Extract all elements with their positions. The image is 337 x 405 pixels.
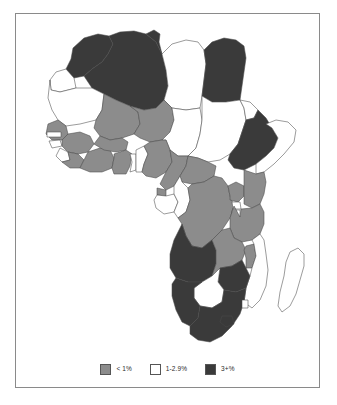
country-madagascar[interactable]: [278, 248, 304, 312]
country-gambia[interactable]: [47, 132, 61, 137]
country-kenya[interactable]: [244, 170, 266, 208]
legend-item-low[interactable]: < 1%: [100, 364, 131, 375]
map-figure-frame: < 1% 1-2.9% 3+%: [15, 13, 320, 388]
legend-item-mid[interactable]: 1-2.9%: [150, 364, 187, 375]
country-swaziland[interactable]: [242, 300, 248, 308]
legend-swatch-mid: [150, 364, 161, 375]
country-libya[interactable]: [162, 40, 206, 110]
legend-label-low: < 1%: [116, 366, 131, 373]
country-equatorial-guinea[interactable]: [157, 188, 166, 196]
africa-map-area: [16, 14, 319, 349]
africa-choropleth-svg: [16, 14, 319, 349]
country-uganda[interactable]: [228, 182, 244, 202]
country-guinea-bissau[interactable]: [49, 140, 62, 148]
legend-swatch-low: [100, 364, 111, 375]
country-togo[interactable]: [130, 154, 136, 172]
legend-item-high[interactable]: 3+%: [205, 364, 235, 375]
map-legend: < 1% 1-2.9% 3+%: [16, 350, 319, 388]
country-egypt[interactable]: [202, 38, 246, 102]
country-guinea[interactable]: [62, 132, 94, 154]
legend-label-mid: 1-2.9%: [166, 366, 187, 373]
legend-swatch-high: [205, 364, 216, 375]
legend-label-high: 3+%: [221, 366, 235, 373]
country-ghana[interactable]: [112, 150, 132, 174]
